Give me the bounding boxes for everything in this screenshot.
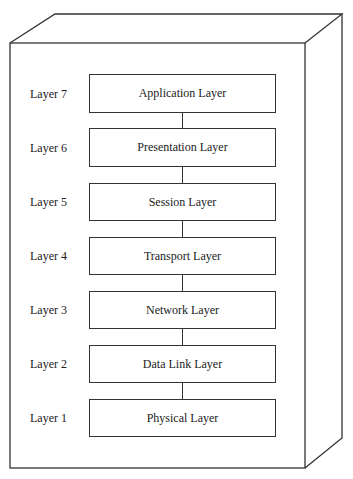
layer-label-4: Layer 4 (30, 249, 90, 263)
top-face (10, 14, 342, 43)
layer-label-7: Layer 7 (30, 87, 90, 101)
connector-3-2 (182, 329, 183, 345)
physical-layer-box: Physical Layer (89, 399, 276, 437)
transport-layer-box: Transport Layer (89, 237, 276, 275)
presentation-layer-box: Presentation Layer (89, 128, 276, 167)
application-layer-box: Application Layer (89, 74, 276, 113)
layer-label-6: Layer 6 (30, 141, 90, 155)
connector-5-4 (182, 221, 183, 237)
layer-label-1: Layer 1 (30, 411, 90, 425)
network-layer-box: Network Layer (89, 291, 276, 329)
layer-label-5: Layer 5 (30, 195, 90, 209)
side-face (305, 14, 342, 468)
data-link-layer-box: Data Link Layer (89, 345, 276, 383)
layer-label-2: Layer 2 (30, 357, 90, 371)
session-layer-box: Session Layer (89, 183, 276, 221)
connector-6-5 (182, 167, 183, 183)
layer-label-3: Layer 3 (30, 303, 90, 317)
connector-2-1 (182, 383, 183, 399)
connector-4-3 (182, 275, 183, 291)
connector-7-6 (182, 113, 183, 128)
